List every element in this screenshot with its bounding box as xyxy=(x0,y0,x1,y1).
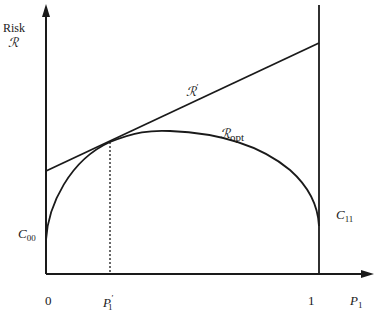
x-axis-main: P xyxy=(350,293,358,308)
tick-zero-text: 0 xyxy=(45,293,52,308)
risk-diagram: Risk ℛ C00 C11 ℛ′ ℛopt 0 P′1 1 P1 xyxy=(0,0,378,315)
y-axis-arrow-icon xyxy=(42,4,50,17)
diagram-canvas xyxy=(0,0,378,315)
r-prime-line xyxy=(46,43,319,171)
r-opt-label: ℛopt xyxy=(220,127,244,143)
r-prime-label: ℛ′ xyxy=(186,83,198,98)
c11-sub: 11 xyxy=(345,214,354,224)
r-prime-sup: ′ xyxy=(196,82,198,92)
x-axis-arrow-icon xyxy=(361,270,374,278)
x-axis-sub: 1 xyxy=(358,300,363,310)
tick-p1-prime-sub: 1 xyxy=(108,302,113,312)
tick-one-text: 1 xyxy=(308,293,315,308)
r-opt-main: ℛ xyxy=(220,126,230,141)
y-axis-label: Risk xyxy=(3,22,25,34)
x-axis-label: P1 xyxy=(350,294,362,310)
c11-label: C11 xyxy=(336,208,353,224)
c00-sub: 00 xyxy=(27,233,36,243)
r-prime-main: ℛ xyxy=(186,84,196,99)
tick-one: 1 xyxy=(308,294,315,307)
r-opt-curve xyxy=(46,131,319,240)
c11-main: C xyxy=(336,207,345,222)
tick-zero: 0 xyxy=(45,294,52,307)
c00-label: C00 xyxy=(18,227,36,243)
tick-p1-prime: P′1 xyxy=(103,294,112,312)
y-axis-label-text: Risk xyxy=(3,21,25,35)
r-opt-sub: opt xyxy=(230,131,244,143)
risk-symbol: ℛ xyxy=(8,35,18,50)
y-axis-symbol: ℛ xyxy=(8,36,18,49)
c00-main: C xyxy=(18,226,27,241)
